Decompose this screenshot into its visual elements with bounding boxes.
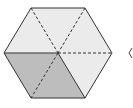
hexagon-diagram bbox=[0, 0, 133, 108]
partial-shape-edge bbox=[129, 48, 132, 58]
